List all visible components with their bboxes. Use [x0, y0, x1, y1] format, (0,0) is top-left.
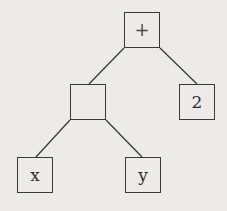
- node-x: x: [17, 157, 53, 193]
- node-label: 2: [192, 94, 203, 111]
- edge-inner-y: [106, 120, 142, 157]
- node-two: 2: [179, 84, 215, 120]
- edge-root-inner: [89, 48, 124, 84]
- node-plus-operator: +: [124, 12, 160, 48]
- edge-root-two: [160, 48, 197, 84]
- node-empty: [70, 84, 106, 120]
- node-y: y: [125, 157, 161, 193]
- expression-tree-diagram: + 2 x y: [0, 0, 227, 211]
- node-label: +: [134, 21, 149, 39]
- edge-inner-x: [36, 120, 70, 157]
- node-label: y: [138, 167, 148, 184]
- node-label: x: [30, 167, 40, 184]
